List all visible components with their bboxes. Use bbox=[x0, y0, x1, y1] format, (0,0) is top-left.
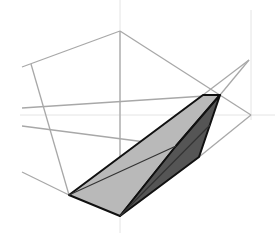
far-tip-to-right-top bbox=[220, 60, 249, 95]
diagram-canvas bbox=[0, 0, 275, 233]
shaded-faces-layer bbox=[69, 95, 220, 216]
axes-layer bbox=[20, 0, 275, 233]
lower-left-line bbox=[22, 172, 69, 195]
far-tip-to-light-top bbox=[203, 60, 249, 95]
apex-to-left bbox=[22, 31, 120, 67]
wireframe-diagram bbox=[0, 0, 275, 233]
